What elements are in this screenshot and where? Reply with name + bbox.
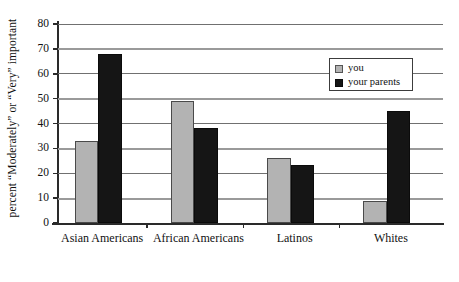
y-tick-label: 80 — [38, 18, 50, 30]
y-tick-label: 40 — [38, 118, 50, 130]
bar-parents — [387, 111, 411, 223]
bar-parents — [194, 128, 218, 223]
plot-area: 01020304050607080 Asian AmericansAfrican… — [58, 24, 443, 223]
legend: you your parents — [329, 58, 413, 91]
y-tick-mark — [53, 173, 58, 175]
gridline — [58, 48, 443, 50]
y-tick-label: 60 — [38, 68, 50, 80]
y-tick-label: 30 — [38, 143, 50, 155]
legend-label-your-parents: your parents — [348, 77, 400, 88]
y-tick-mark — [53, 197, 58, 199]
gridline — [58, 24, 443, 25]
x-tick-label: African Americans — [153, 231, 244, 246]
y-tick-label: 10 — [38, 192, 50, 204]
x-tick-label: Latinos — [277, 231, 313, 246]
x-tick-mark — [243, 223, 245, 228]
bar-you — [267, 158, 291, 223]
x-tick-label: Whites — [374, 231, 408, 246]
x-tick-mark — [146, 223, 148, 228]
legend-item: you — [335, 62, 408, 75]
legend-swatch-you-icon — [335, 65, 343, 73]
x-tick-label: Asian Americans — [61, 231, 143, 246]
y-tick-label: 20 — [38, 168, 50, 180]
y-tick-mark — [53, 148, 58, 150]
y-tick-label: 70 — [38, 43, 50, 55]
bar-parents — [98, 54, 122, 223]
x-axis-line — [52, 223, 444, 225]
bar-you — [171, 101, 195, 223]
y-tick-mark — [53, 73, 58, 75]
y-tick-mark — [53, 98, 58, 100]
legend-label-you: you — [348, 63, 364, 74]
legend-item: your parents — [335, 76, 408, 89]
legend-swatch-your-parents-icon — [335, 79, 343, 87]
bar-you — [363, 201, 387, 223]
bar-chart: percent “Moderately” or “Very” important… — [0, 0, 459, 282]
y-tick-mark — [53, 222, 58, 224]
x-tick-mark — [339, 223, 341, 228]
y-tick-label: 50 — [38, 93, 50, 105]
y-tick-mark — [53, 123, 58, 125]
bar-parents — [291, 165, 315, 223]
y-tick-mark — [53, 48, 58, 50]
y-tick-mark — [53, 23, 58, 25]
y-tick-label: 0 — [43, 217, 49, 229]
y-axis-title: percent “Moderately” or “Very” important — [6, 13, 18, 223]
bar-you — [75, 141, 99, 223]
